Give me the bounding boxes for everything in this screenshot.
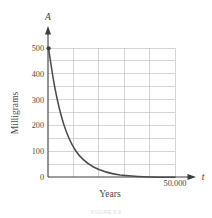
chart-axes bbox=[45, 26, 196, 180]
decay-chart: 500 400 300 200 100 0 A t Milligrams Yea… bbox=[0, 0, 212, 218]
y-tick-400: 400 bbox=[32, 70, 44, 79]
y-axis-symbol-A: A bbox=[44, 12, 51, 22]
x-axis-arrow-icon bbox=[188, 174, 197, 180]
curve-start-point bbox=[47, 46, 51, 50]
chart-gridlines bbox=[48, 48, 175, 177]
y-tick-200: 200 bbox=[32, 121, 44, 130]
x-axis-symbol-t: t bbox=[202, 172, 205, 182]
y-tick-300: 300 bbox=[32, 96, 44, 105]
y-axis-arrow-icon bbox=[45, 26, 51, 35]
x-axis-end-label: 50,000 bbox=[163, 179, 186, 188]
figure-caption: FIGURE 5.9 bbox=[91, 209, 121, 215]
y-axis-tick-labels: 500 400 300 200 100 0 bbox=[32, 44, 44, 182]
y-axis-title: Milligrams bbox=[9, 91, 20, 134]
decay-curve-group bbox=[47, 46, 176, 177]
y-tick-500: 500 bbox=[32, 44, 44, 53]
figure-container: 500 400 300 200 100 0 A t Milligrams Yea… bbox=[0, 0, 212, 218]
x-axis-title: Years bbox=[99, 188, 121, 199]
y-tick-0: 0 bbox=[40, 173, 44, 182]
decay-curve bbox=[49, 49, 175, 178]
y-tick-100: 100 bbox=[32, 147, 44, 156]
